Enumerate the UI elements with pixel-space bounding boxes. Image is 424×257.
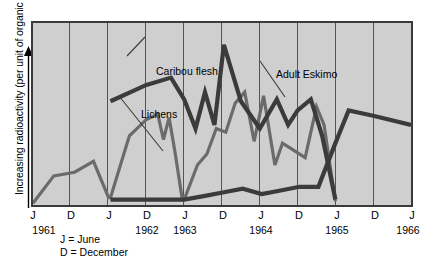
axis-key: J = June D = December xyxy=(60,233,128,257)
series-container xyxy=(33,23,411,205)
xtick-label-10: J xyxy=(402,209,422,221)
xtick-year-1964: 1964 xyxy=(241,224,281,236)
chart-figure: Increasing radioactivity (per unit of or… xyxy=(0,0,424,257)
xtick-year-1963: 1963 xyxy=(165,224,205,236)
xtick-year-1966: 1966 xyxy=(388,224,424,236)
annotation-caribou-flesh: Caribou flesh xyxy=(156,65,218,77)
xtick-label-6: J xyxy=(251,209,271,221)
leader-line-lichens xyxy=(119,96,163,151)
annotation-adult-eskimo: Adult Eskimo xyxy=(276,68,337,80)
annotation-lichens: Lichens xyxy=(141,108,177,120)
key-line-june: J = June xyxy=(60,233,128,246)
xtick-label-9: D xyxy=(365,209,385,221)
xtick-year-1961: 1961 xyxy=(24,224,64,236)
xtick-label-5: D xyxy=(213,209,233,221)
xtick-label-7: D xyxy=(289,209,309,221)
plot-area: Caribou flesh Lichens Adult Eskimo xyxy=(31,21,413,207)
xtick-year-1965: 1965 xyxy=(317,224,357,236)
leader-line-caribou xyxy=(127,37,145,56)
xtick-label-4: J xyxy=(175,209,195,221)
key-line-december: D = December xyxy=(60,246,128,257)
xtick-label-3: D xyxy=(137,209,157,221)
xtick-year-1962: 1962 xyxy=(127,224,167,236)
xtick-label-1: D xyxy=(61,209,81,221)
xtick-label-8: J xyxy=(327,209,347,221)
xtick-label-0: J xyxy=(23,209,43,221)
xtick-label-2: J xyxy=(99,209,119,221)
